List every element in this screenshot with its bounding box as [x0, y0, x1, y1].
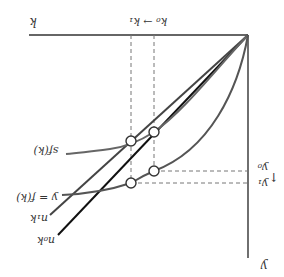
- y0-label: y₀: [257, 161, 269, 174]
- k-shift-label: k₀ → k₁: [129, 15, 167, 28]
- steady-state-marker-output-k0: [149, 166, 159, 176]
- y-shift-arrow-icon: ↑: [269, 170, 279, 184]
- solow-diagram: k k₀ → k₁ y y₀ y₁ ↑ sf(k) y = f(k) n₁k n…: [0, 0, 284, 277]
- production-curve-label: y = f(k): [16, 191, 59, 204]
- savings-curve-label: sf(k): [34, 144, 59, 157]
- vertical-axis-label: y: [260, 259, 268, 273]
- break-even-n1-label: n₁k: [30, 212, 48, 225]
- steady-state-marker-savings-k1: [126, 136, 136, 146]
- break-even-line-n1: [50, 35, 248, 215]
- steady-state-marker-savings-k0: [149, 127, 159, 137]
- break-even-n0-label: n₀k: [37, 234, 55, 247]
- y1-label: y₁: [258, 177, 270, 190]
- steady-state-marker-output-k1: [126, 178, 136, 188]
- horizontal-axis-label: k: [29, 15, 36, 29]
